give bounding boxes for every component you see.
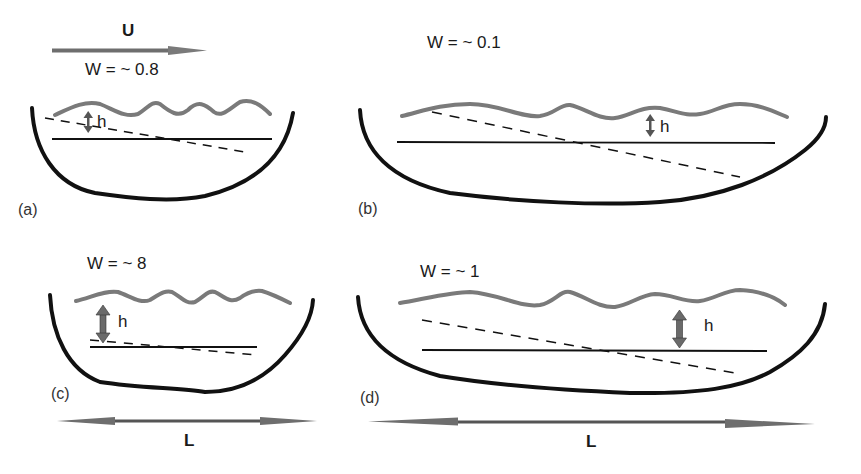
panel-id-d: (d)	[360, 390, 380, 406]
w-value-label-c: W = ~ 8	[87, 255, 147, 272]
mean-level-line	[397, 142, 775, 143]
flow-velocity-label: U	[122, 22, 134, 39]
panel-id-a: (a)	[18, 202, 38, 218]
tilted-interface-line	[45, 118, 245, 152]
h-label-b: h	[660, 118, 669, 135]
basin-outline	[358, 297, 825, 393]
water-surface-wave	[76, 291, 290, 303]
height-arrow-icon	[84, 111, 94, 133]
height-arrow-icon	[96, 305, 110, 343]
w-value-label-d: W = ~ 1	[420, 263, 480, 280]
panel-id-b: (b)	[358, 201, 378, 217]
tilted-interface-line	[432, 112, 740, 177]
h-label-c: h	[118, 313, 127, 330]
height-arrow-icon	[646, 114, 656, 137]
panel-a	[32, 46, 293, 199]
tilted-interface-line	[422, 320, 735, 373]
height-arrow-icon	[673, 310, 687, 348]
basin-outline	[50, 295, 313, 392]
h-label-a: h	[97, 113, 106, 130]
panel-id-c: (c)	[51, 386, 70, 402]
w-value-label-a: W = ~ 0.8	[85, 61, 159, 78]
panel-c	[50, 291, 317, 425]
flow-arrow-icon	[52, 46, 207, 55]
water-surface-wave	[402, 104, 787, 118]
length-scale-arrow-icon	[57, 417, 317, 425]
water-surface-wave	[400, 290, 785, 307]
length-label-d: L	[586, 433, 596, 450]
h-label-d: h	[704, 317, 713, 334]
length-label-c: L	[184, 432, 194, 449]
basin-outline	[360, 110, 826, 204]
panel-b	[360, 104, 826, 204]
panel-d	[358, 290, 825, 428]
length-scale-arrow-icon	[368, 418, 815, 429]
mean-level-line	[422, 350, 767, 351]
w-value-label-b: W = ~ 0.1	[427, 34, 501, 51]
basin-outline	[32, 108, 293, 199]
